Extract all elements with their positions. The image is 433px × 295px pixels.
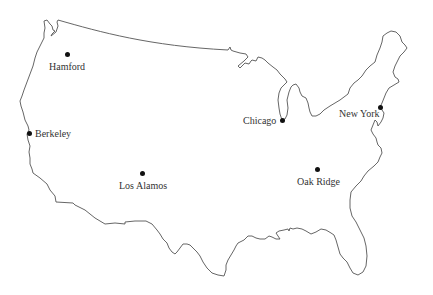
us-outline <box>0 0 433 295</box>
location-marker-icon <box>27 131 32 136</box>
site-label: New York <box>339 108 380 119</box>
location-marker-icon <box>315 167 320 172</box>
site-label: Chicago <box>243 115 276 126</box>
location-marker-icon <box>140 171 145 176</box>
site-label: Oak Ridge <box>297 176 340 187</box>
location-marker-icon <box>280 118 285 123</box>
us-map: Hamford Berkeley Los Alamos Chicago New … <box>0 0 433 295</box>
site-label: Berkeley <box>35 128 71 139</box>
site-label: Los Alamos <box>119 180 167 191</box>
location-marker-icon <box>65 52 70 57</box>
site-label: Hamford <box>49 61 85 72</box>
